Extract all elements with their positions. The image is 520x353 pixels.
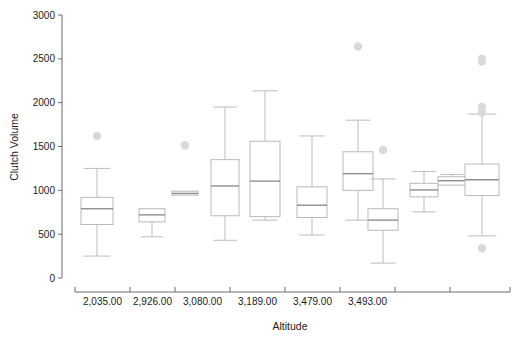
- y-axis-tick-label: 2500: [33, 53, 56, 64]
- boxplot-box-9: [410, 171, 438, 211]
- y-axis-tick-label: 0: [49, 273, 55, 284]
- boxplot-box-2: [139, 209, 165, 237]
- x-axis-category-label: 2,926.00: [133, 296, 172, 307]
- box-body: [211, 160, 239, 216]
- boxplot-box-7: [343, 42, 373, 220]
- y-axis-tick-label: 3000: [33, 10, 56, 21]
- x-axis-category-label: 2,035.00: [83, 296, 122, 307]
- boxplot-box-1: [81, 132, 113, 256]
- boxplot-chart: 050010001500200025003000 2,035.002,926.0…: [0, 0, 520, 353]
- outlier-point: [478, 244, 486, 252]
- outlier-point: [379, 146, 387, 154]
- outlier-point: [354, 42, 362, 50]
- outlier-point: [93, 132, 101, 140]
- box-body: [81, 197, 113, 224]
- box-body: [250, 141, 280, 216]
- y-axis-tick-label: 2000: [33, 97, 56, 108]
- box-body: [297, 187, 327, 218]
- x-axis-category-label: 3,479.00: [293, 296, 332, 307]
- boxplot-box-11: [465, 55, 499, 253]
- boxplot-box-4: [211, 107, 239, 240]
- y-axis-tick-label: 1500: [33, 141, 56, 152]
- x-axis-category-label: 3,493.00: [348, 296, 387, 307]
- x-axis-title: Altitude: [272, 320, 307, 332]
- y-axis: 050010001500200025003000: [33, 10, 62, 284]
- outlier-point: [478, 108, 486, 116]
- box-body: [343, 152, 373, 191]
- y-axis-title: Clutch Volume: [8, 113, 20, 181]
- outlier-point: [181, 141, 189, 149]
- box-series: [81, 42, 499, 263]
- x-axis: 2,035.002,926.003,080.003,189.003,479.00…: [75, 287, 510, 307]
- chart-canvas: 050010001500200025003000 2,035.002,926.0…: [0, 0, 520, 353]
- boxplot-box-6: [297, 136, 327, 235]
- x-axis-category-label: 3,189.00: [238, 296, 277, 307]
- y-axis-tick-label: 1000: [33, 185, 56, 196]
- boxplot-box-3: [172, 141, 198, 195]
- boxplot-box-5: [250, 91, 280, 220]
- x-axis-category-label: 3,080.00: [183, 296, 222, 307]
- outlier-point: [478, 57, 486, 65]
- y-axis-tick-label: 500: [38, 229, 55, 240]
- boxplot-box-10: [438, 175, 466, 186]
